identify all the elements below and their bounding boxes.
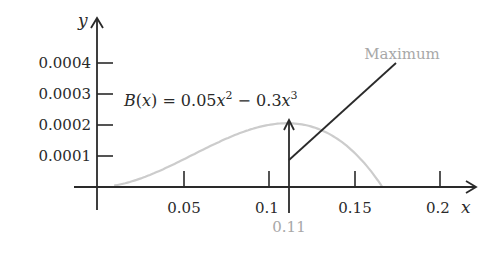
maximum-annotation: Maximum <box>364 45 440 63</box>
y-axis <box>91 18 103 210</box>
x-ticks <box>184 171 440 187</box>
formula-minus: − 0.3 <box>233 91 282 110</box>
y-tick-label: 0.0004 <box>39 54 92 72</box>
formula-mid: ) = 0.05 <box>151 91 216 110</box>
x-tick-label: 0.1 <box>255 199 279 217</box>
y-axis-label: y <box>77 10 88 30</box>
x-tick-label: 0.15 <box>338 199 371 217</box>
formula-b: B <box>123 91 136 110</box>
max-marker <box>284 63 396 213</box>
formula-exp2: 2 <box>226 89 233 102</box>
formula-x: x <box>142 91 151 110</box>
y-ticks <box>97 63 113 156</box>
maximum-leader-line <box>289 63 396 160</box>
x-axis <box>74 181 476 193</box>
x-tick-label: 0.05 <box>167 199 200 217</box>
curve-b-of-x <box>114 123 382 187</box>
y-tick-label: 0.0003 <box>39 85 92 103</box>
chart: y x 0.0004 0.0003 0.0002 0.0001 0.05 0.1… <box>0 0 500 253</box>
x-axis-label: x <box>461 197 471 217</box>
y-tick-label: 0.0001 <box>39 147 92 165</box>
formula-x3: x <box>282 91 291 110</box>
formula-exp3: 3 <box>291 89 298 102</box>
formula-label: B(x) = 0.05x2 − 0.3x3 <box>123 89 298 110</box>
y-tick-label: 0.0002 <box>39 116 92 134</box>
x-tick-label: 0.2 <box>426 199 450 217</box>
max-x-annotation: 0.11 <box>272 218 305 236</box>
formula-x2: x <box>217 91 226 110</box>
